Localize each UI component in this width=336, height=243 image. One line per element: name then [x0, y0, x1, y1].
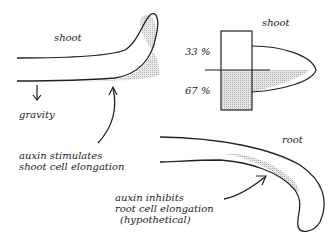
- root-label: root: [282, 134, 303, 145]
- root-pointer-arrow-icon: [224, 176, 266, 199]
- auxin-root-label-line3: (hypothetical): [120, 214, 191, 225]
- percent-top-label: 33 %: [185, 46, 210, 57]
- gravity-arrow-icon: [33, 85, 41, 100]
- shoot-label: shoot: [54, 32, 82, 43]
- auxin-shoot-label-line2: shoot cell elongation: [19, 161, 125, 172]
- shoot-inset-label: shoot: [262, 17, 290, 28]
- auxin-gravitropism-diagram: shoot gravity auxin stimulates shoot cel…: [0, 0, 336, 243]
- shoot-pointer-arrow-icon: [98, 87, 117, 143]
- gravity-label: gravity: [19, 109, 55, 120]
- auxin-shoot-label-line1: auxin stimulates: [19, 150, 102, 161]
- percent-bottom-label: 67 %: [185, 85, 210, 96]
- shoot-outline: [17, 14, 160, 82]
- shoot-inset-chart: [205, 31, 316, 110]
- auxin-root-label-line1: auxin inhibits: [115, 192, 184, 203]
- auxin-root-label-line2: root cell elongation: [115, 203, 214, 214]
